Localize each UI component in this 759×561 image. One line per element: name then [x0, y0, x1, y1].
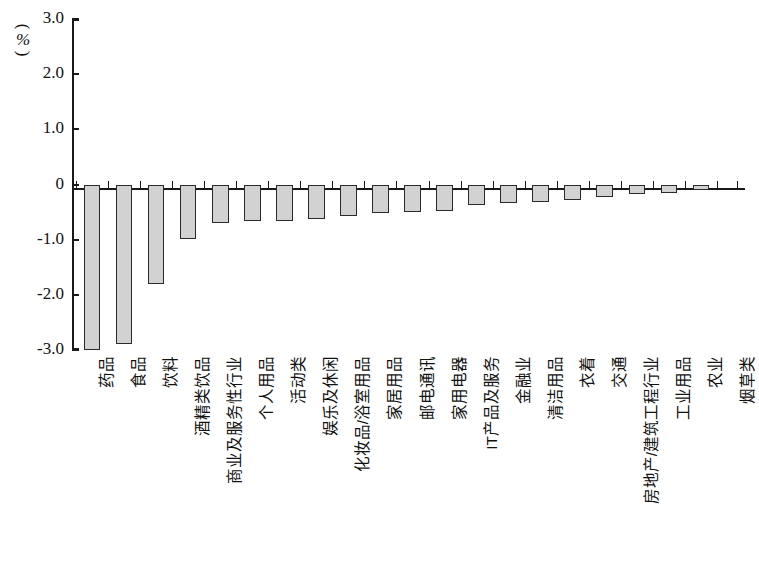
y-axis-tick-label: -3.0: [0, 339, 64, 359]
x-axis-category-label: 个人用品: [259, 356, 275, 420]
x-axis-category-label: 药品: [99, 356, 115, 388]
x-axis-tick: [557, 181, 558, 188]
x-axis-category-labels: 药品食品饮料酒精类饮品商业及服务性行业个人用品活动类娱乐及休闲化妆品/浴室用品家…: [72, 356, 745, 556]
y-axis-tick-label: 0: [0, 174, 64, 194]
x-axis-category-label: 饮料: [163, 356, 179, 388]
y-axis-tick-label: -2.0: [0, 284, 64, 304]
bar: [661, 185, 678, 193]
x-axis-tick: [653, 181, 654, 188]
x-axis-category-label: 娱乐及休闲: [323, 356, 339, 436]
bar: [340, 185, 357, 217]
x-axis-tick: [76, 181, 77, 188]
bar: [500, 185, 517, 203]
x-axis-category-label: 活动类: [291, 356, 307, 404]
bar: [180, 185, 197, 239]
x-axis-tick: [429, 181, 430, 188]
bar-chart: ( % ) 3.02.01.00-1.0-2.0-3.0 药品食品饮料酒精类饮品…: [0, 0, 759, 561]
x-axis-tick: [493, 181, 494, 188]
x-axis-category-label: 家居用品: [387, 356, 403, 420]
x-axis-category-label: 商业及服务性行业: [227, 356, 243, 484]
bar: [532, 185, 549, 202]
x-axis-tick: [172, 181, 173, 188]
x-axis-tick: [717, 181, 718, 188]
bar: [404, 185, 421, 213]
x-axis-category-label: 金融业: [516, 356, 532, 404]
x-axis-tick: [525, 181, 526, 188]
y-axis-tick-label: -1.0: [0, 229, 64, 249]
y-axis-tick: [72, 128, 79, 130]
x-axis-category-label: 农业: [708, 356, 724, 388]
x-axis-category-label: 化妆品/浴室用品: [355, 356, 371, 472]
y-axis-tick-label: 1.0: [0, 118, 64, 138]
x-axis-tick: [737, 181, 738, 188]
bar: [212, 185, 229, 224]
x-axis-category-label: 衣着: [580, 356, 596, 388]
y-axis-tick: [72, 73, 79, 75]
x-axis-category-label: 烟草类: [740, 356, 756, 404]
x-axis-category-label: 邮电通讯: [420, 356, 436, 420]
x-axis-tick: [685, 181, 686, 188]
x-axis-category-label: 工业用品: [676, 356, 692, 420]
bar: [276, 185, 293, 221]
x-axis-tick: [300, 181, 301, 188]
x-axis-tick: [621, 181, 622, 188]
bar: [596, 185, 613, 197]
x-axis-tick: [332, 181, 333, 188]
x-axis-category-label: 交通: [612, 356, 628, 388]
x-axis-category-label: 家用电器: [452, 356, 468, 420]
bar: [629, 185, 646, 195]
y-axis-tick: [72, 294, 79, 296]
plot-area: [72, 19, 745, 350]
x-axis-tick: [396, 181, 397, 188]
x-axis-category-label: 食品: [131, 356, 147, 388]
x-axis-category-label: 清洁用品: [548, 356, 564, 420]
bar: [308, 185, 325, 219]
x-axis-category-label: IT产品及服务: [484, 356, 500, 450]
bar: [148, 185, 165, 284]
x-axis-tick: [268, 181, 269, 188]
bar: [84, 185, 101, 351]
x-axis-tick: [589, 181, 590, 188]
bar: [372, 185, 389, 214]
y-axis-tick-label: 3.0: [0, 8, 64, 28]
x-axis-tick: [364, 181, 365, 188]
y-axis-tick-label: 2.0: [0, 63, 64, 83]
y-axis-tick: [72, 239, 79, 241]
bar: [564, 185, 581, 200]
bar: [468, 185, 485, 206]
x-axis-category-label: 房地产/建筑工程行业: [644, 356, 660, 504]
x-axis-tick: [461, 181, 462, 188]
x-axis-tick: [140, 181, 141, 188]
x-axis-tick: [204, 181, 205, 188]
bar: [244, 185, 261, 221]
bar: [693, 185, 710, 191]
bar: [436, 185, 453, 211]
x-axis-category-label: 酒精类饮品: [195, 356, 211, 436]
bar: [116, 185, 133, 345]
y-axis-tick: [72, 18, 79, 20]
y-axis-tick: [72, 349, 79, 351]
x-axis-tick: [108, 181, 109, 188]
x-axis-tick: [236, 181, 237, 188]
